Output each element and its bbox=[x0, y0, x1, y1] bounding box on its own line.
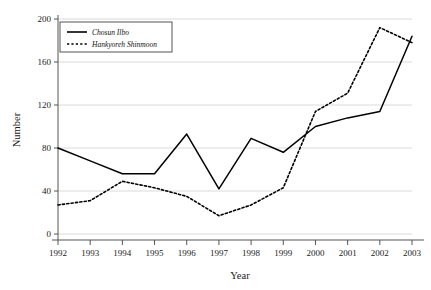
x-axis-tick-label: 1998 bbox=[242, 248, 261, 258]
x-axis-title: Year bbox=[230, 270, 250, 281]
x-axis-tick-label: 1995 bbox=[146, 248, 165, 258]
legend-item-label: Hankyoreh Shinmoon bbox=[91, 40, 157, 49]
y-axis-tick-label: 120 bbox=[38, 100, 52, 110]
x-axis-tick-label: 2001 bbox=[339, 248, 357, 258]
line-chart: 04080120160200 1992199319941995199619971… bbox=[0, 0, 431, 290]
y-axis-tick-label: 0 bbox=[47, 229, 52, 239]
y-axis-tick-label: 40 bbox=[42, 186, 52, 196]
legend-group: Chosun IlboHankyoreh Shinmoon bbox=[60, 22, 172, 52]
y-axis-tick-label: 160 bbox=[38, 57, 52, 67]
y-axis-tick-label: 200 bbox=[38, 14, 52, 24]
x-axis-tick-label: 2003 bbox=[403, 248, 422, 258]
chart-canvas: 04080120160200 1992199319941995199619971… bbox=[0, 0, 431, 290]
x-axis-tick-label: 1996 bbox=[178, 248, 197, 258]
y-axis-title: Number bbox=[11, 112, 22, 147]
x-axis-tick-label: 2000 bbox=[306, 248, 325, 258]
x-axis-tick-label: 1993 bbox=[81, 248, 100, 258]
x-axis-tick-label: 1992 bbox=[49, 248, 67, 258]
x-axis-tick-label: 2002 bbox=[371, 248, 389, 258]
x-axis-tick-label: 1997 bbox=[210, 248, 229, 258]
x-axis-tick-label: 1999 bbox=[274, 248, 293, 258]
y-axis-tick-label: 80 bbox=[42, 143, 52, 153]
legend-item-label: Chosun Ilbo bbox=[92, 28, 129, 37]
x-axis-tick-label: 1994 bbox=[113, 248, 132, 258]
